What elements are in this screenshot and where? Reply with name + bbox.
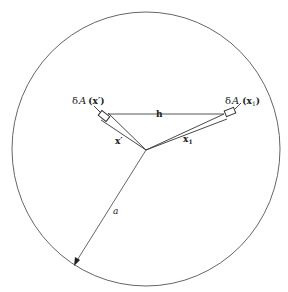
vector-right-label: x1 [183,134,193,145]
vector-left-edge-2 [108,113,146,150]
boundary-circle [12,12,280,286]
vector-left-label: x′ [115,136,123,146]
vector-right-edge-1 [146,114,224,150]
separation-label: h [156,109,163,119]
radius-arrowhead-icon [74,257,80,266]
area-left-leader [94,106,101,113]
area-left-label: δA(x′) [72,95,105,106]
diagram-canvas: δA(x′) δA(x1) h x′ x1 a [0,0,288,292]
radius-line [76,150,146,262]
area-element-right [224,107,236,116]
area-right-label: δA(x1) [225,95,260,107]
vector-left-edge-1 [101,120,146,150]
radius-label: a [113,206,118,216]
